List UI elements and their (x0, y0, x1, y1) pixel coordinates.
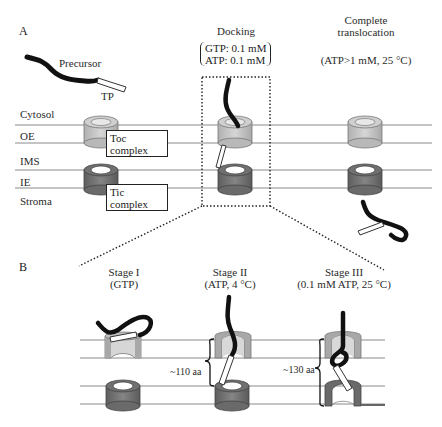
stage1-title: Stage I (109, 266, 140, 278)
docking-tp-icon (216, 145, 226, 168)
panel-b-label: B (19, 260, 27, 275)
span-label-110aa: ~110 aa (170, 366, 201, 378)
stage1-tic-icon (106, 380, 140, 411)
compartment-cytosol: Cytosol (20, 108, 54, 120)
stage3-condition: (0.1 mM ATP, 25 °C) (297, 278, 391, 290)
compartment-stroma: Stroma (20, 195, 52, 207)
zoom-line-left (79, 206, 202, 266)
stage3-brace-icon (315, 339, 324, 406)
docking-conditions: GTP: 0.1 mM ATP: 0.1 mM (200, 42, 271, 66)
stage2-condition: (ATP, 4 °C) (204, 278, 255, 290)
compartment-oe: OE (20, 130, 35, 142)
tic-complex-label: Tic complex (106, 184, 168, 211)
compartment-ie: IE (20, 176, 30, 188)
tic-line2: complex (110, 198, 164, 210)
span-label-130aa: ~130 aa (283, 364, 315, 376)
stage2-tic-icon (215, 380, 249, 411)
stage3-tic-open-icon (325, 380, 385, 406)
stage1-condition: (GTP) (110, 278, 138, 290)
complete-title-line1: Complete (345, 14, 388, 26)
tic-line1: Tic (110, 186, 164, 198)
toc-complex-label: Toc complex (106, 130, 168, 157)
cleaved-tp-icon (358, 222, 384, 235)
complete-title-line2: translocation (338, 26, 395, 38)
zoom-line-right (270, 206, 384, 270)
stage2-brace-icon (205, 339, 214, 386)
stage2-title: Stage II (213, 266, 248, 278)
panel-a-label: A (19, 24, 28, 39)
precursor-label: Precursor (59, 57, 101, 69)
cropped-caption (12, 416, 432, 424)
compartment-ims: IMS (20, 155, 40, 167)
complete-tic-icon (348, 164, 382, 195)
released-precursor-icon (363, 202, 406, 240)
docking-condition-gtp: GTP: 0.1 mM (205, 42, 266, 54)
toc-line2: complex (110, 144, 164, 156)
stage3-title: Stage III (325, 266, 363, 278)
tp-label: TP (101, 90, 114, 102)
toc-line1: Toc (110, 132, 164, 144)
complete-condition: (ATP>1 mM, 25 °C) (321, 54, 412, 66)
docking-title: Docking (217, 25, 255, 37)
docking-tic-icon (218, 164, 252, 195)
stage3-tp-icon (333, 365, 352, 391)
complete-toc-icon (348, 116, 382, 148)
docking-condition-atp: ATP: 0.1 mM (205, 54, 266, 66)
